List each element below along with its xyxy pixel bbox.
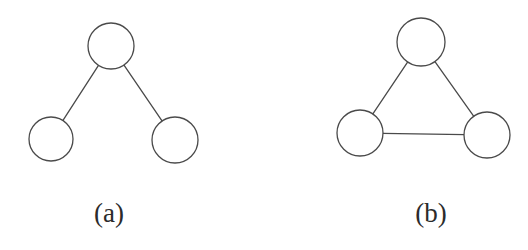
panel-b-edge-top-to-bottom-left	[373, 62, 408, 115]
panel-b-edge-bottom-left-to-bottom-right	[382, 133, 464, 134]
panel-b-edge-top-to-bottom-right	[435, 61, 474, 116]
panel-b-node-bottom-left	[337, 110, 383, 156]
panel-a-node-top	[88, 23, 134, 69]
panel-b-label: (b)	[415, 200, 446, 227]
panel-a-node-bottom-right	[152, 117, 198, 163]
panel-b-node-bottom-right	[464, 112, 510, 158]
panel-a-label: (a)	[94, 200, 124, 227]
panel-a-node-bottom-left	[29, 117, 73, 161]
panel-a-edge-top-to-bottom-right	[124, 65, 163, 122]
edges-layer	[63, 61, 474, 134]
panel-b-node-top	[397, 18, 445, 66]
nodes-layer	[29, 18, 510, 163]
panel-a-edge-top-to-bottom-left	[63, 65, 99, 121]
graph-figure-svg	[0, 0, 528, 250]
figure-container: (a)(b)	[0, 0, 528, 250]
